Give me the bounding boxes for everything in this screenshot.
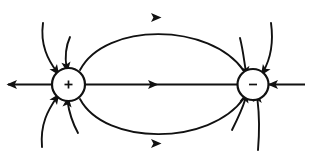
positive-charge: positive point charge (+) — [52, 68, 85, 101]
dipole-field-diagram: positive point charge (+)negative point … — [0, 0, 310, 163]
electric-dipole-figure: positive point charge (+)negative point … — [0, 0, 310, 163]
negative-charge: negative point charge (−) — [238, 69, 269, 100]
